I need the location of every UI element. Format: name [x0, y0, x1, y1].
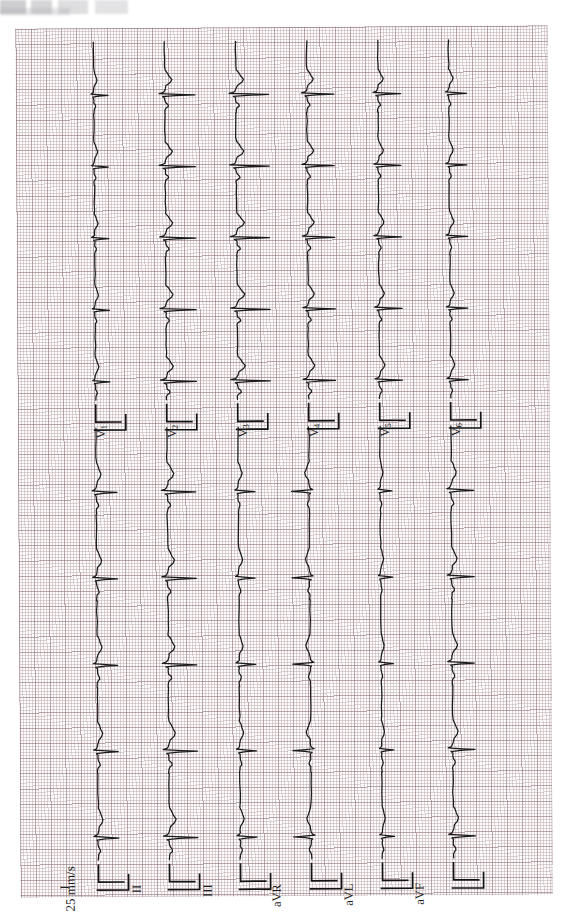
lead-label-I: I — [59, 885, 72, 889]
lead-label-V5: V5 — [379, 423, 393, 436]
ecg-paper-wrapper: 25 mm/s I II III aVR aVL aVF V1 V2 V3 V4 — [0, 0, 568, 913]
ecg-trace-ii — [161, 428, 198, 860]
lead-label-aVR: aVR — [271, 884, 284, 907]
calibration-pulse-ii — [167, 864, 199, 890]
ecg-trace-i — [92, 428, 120, 860]
ecg-trace-v2 — [158, 42, 197, 400]
lead-label-II: II — [131, 885, 144, 893]
lead-label-V3: V3 — [237, 424, 251, 437]
lead-label-V6: V6 — [450, 423, 464, 436]
calibration-pulse-i — [96, 864, 128, 890]
ecg-trace-iii — [234, 427, 257, 859]
ecg-trace-v3 — [229, 41, 271, 399]
lead-label-aVL: aVL — [343, 884, 356, 906]
lead-label-III: III — [202, 884, 215, 897]
ecg-trace-avr — [291, 427, 315, 859]
calibration-pulse-avf — [451, 862, 483, 888]
lead-label-V4: V4 — [308, 424, 322, 437]
ecg-page: 25 mm/s I II III aVR aVL aVF V1 V2 V3 V4 — [0, 0, 568, 913]
lead-label-aVF: aVF — [414, 883, 427, 905]
calibration-pulse-iii — [238, 863, 270, 889]
ecg-traces-layer — [15, 25, 552, 897]
ecg-trace-v4 — [301, 41, 336, 399]
ecg-trace-avf — [446, 426, 476, 858]
ecg-waveform-svg — [15, 25, 552, 897]
lead-label-V2: V2 — [166, 425, 180, 438]
calibration-pulse-avl — [380, 862, 412, 888]
ecg-trace-avl — [377, 426, 394, 858]
ecg-trace-v1 — [90, 42, 110, 400]
waveform-paths — [89, 40, 476, 860]
calibration-pulses — [94, 402, 484, 890]
lead-label-V1: V1 — [95, 425, 109, 438]
ecg-trace-v6 — [445, 40, 469, 398]
ecg-trace-v5 — [373, 40, 403, 398]
calibration-pulse-avr — [309, 863, 341, 889]
